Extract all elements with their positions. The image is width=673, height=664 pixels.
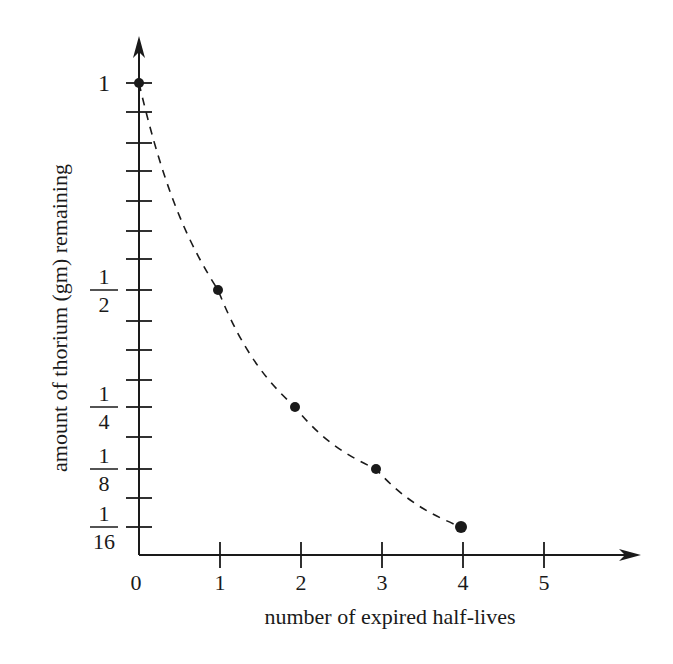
y-tick-label: 12 — [90, 264, 118, 317]
x-tick-label: 2 — [296, 570, 307, 595]
x-tick-labels: 012345 — [131, 570, 550, 595]
y-tick-label: 18 — [90, 443, 118, 496]
x-tick-label: 3 — [377, 570, 388, 595]
x-tick-label: 1 — [215, 570, 226, 595]
svg-text:1: 1 — [98, 70, 110, 96]
svg-text:1: 1 — [99, 381, 110, 406]
data-point — [455, 521, 467, 533]
y-tick-label: 14 — [90, 381, 118, 434]
data-point — [290, 402, 300, 412]
decay-curve — [139, 83, 461, 527]
axes — [133, 36, 641, 561]
x-tick-label: 0 — [131, 570, 142, 595]
x-tick-label: 5 — [539, 570, 550, 595]
svg-text:1: 1 — [99, 443, 110, 468]
data-point — [371, 464, 381, 474]
axis-ticks — [126, 83, 544, 568]
x-tick-label: 4 — [458, 570, 469, 595]
y-tick-labels: 1121418116 — [90, 70, 118, 554]
svg-text:8: 8 — [99, 471, 110, 496]
y-axis-label: amount of thorium (gm) remaining — [47, 164, 72, 472]
svg-text:4: 4 — [99, 409, 110, 434]
svg-text:2: 2 — [99, 292, 110, 317]
data-point — [213, 285, 223, 295]
svg-text:1: 1 — [99, 264, 110, 289]
y-tick-label: 1 — [98, 70, 110, 96]
data-points — [134, 78, 467, 533]
x-axis-label: number of expired half-lives — [264, 604, 515, 629]
svg-text:1: 1 — [99, 501, 110, 526]
y-tick-label: 116 — [90, 501, 118, 554]
svg-text:16: 16 — [93, 529, 115, 554]
data-point — [134, 78, 144, 88]
decay-chart: 1121418116 012345 number of expired half… — [0, 0, 673, 664]
